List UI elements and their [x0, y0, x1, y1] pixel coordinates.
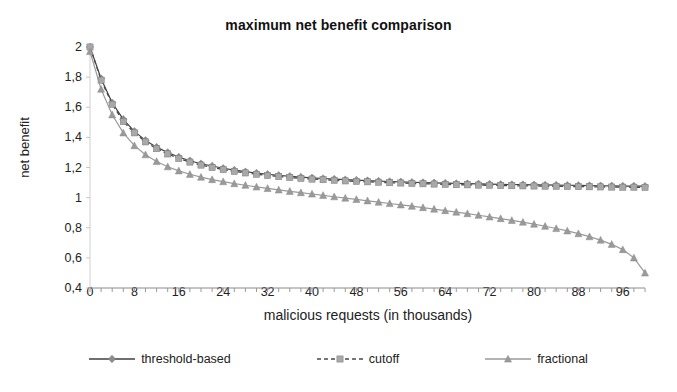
legend-label: cutoff: [369, 352, 399, 366]
chart-container: maximum net benefit comparison net benef…: [0, 0, 677, 392]
x-axis-tick-label: 32: [248, 285, 288, 299]
legend-item-cutoff[interactable]: cutoff: [317, 352, 399, 366]
legend-key-triangle-icon: [485, 353, 531, 365]
series-threshold-based: [86, 43, 648, 190]
y-axis-tick-label: 1,8: [42, 70, 82, 84]
x-axis-tick-label: 56: [381, 285, 421, 299]
legend-key-square-icon: [317, 353, 363, 365]
chart-title: maximum net benefit comparison: [0, 17, 677, 33]
x-axis-tick-label: 16: [159, 285, 199, 299]
x-axis-tick-label: 0: [70, 285, 110, 299]
x-axis-tick-label: 48: [336, 285, 376, 299]
series-cutoff: [87, 44, 648, 191]
y-axis-tick-label: 1,6: [42, 100, 82, 114]
legend-item-threshold-based[interactable]: threshold-based: [89, 352, 231, 366]
x-axis-tick-label: 96: [603, 285, 643, 299]
legend-key-diamond-icon: [89, 353, 135, 365]
x-axis-tick-label: 64: [425, 285, 465, 299]
legend-item-fractional[interactable]: fractional: [485, 352, 588, 366]
y-axis-tick-label: 1: [42, 191, 82, 205]
y-axis-tick-labels: 0,40,60,811,21,41,61,82: [38, 0, 82, 392]
x-axis-tick-label: 72: [470, 285, 510, 299]
y-axis-tick-label: 1,2: [42, 161, 82, 175]
legend-label: threshold-based: [141, 352, 231, 366]
x-axis-tick-label: 80: [514, 285, 554, 299]
y-axis-tick-label: 1,4: [42, 130, 82, 144]
series-fractional: [87, 48, 649, 276]
x-axis-tick-label: 8: [114, 285, 154, 299]
x-axis-title: malicious requests (in thousands): [88, 307, 648, 323]
legend-label: fractional: [537, 352, 588, 366]
x-axis-tick-label: 24: [203, 285, 243, 299]
y-axis-tick-label: 2: [42, 40, 82, 54]
x-axis-tick-label: 88: [558, 285, 598, 299]
chart-legend: threshold-basedcutofffractional: [0, 352, 677, 366]
y-axis-tick-label: 0,6: [42, 251, 82, 265]
plot-area: [0, 0, 677, 392]
x-axis-tick-label: 40: [292, 285, 332, 299]
y-axis-tick-label: 0,8: [42, 221, 82, 235]
y-axis-title: net benefit: [17, 88, 32, 208]
